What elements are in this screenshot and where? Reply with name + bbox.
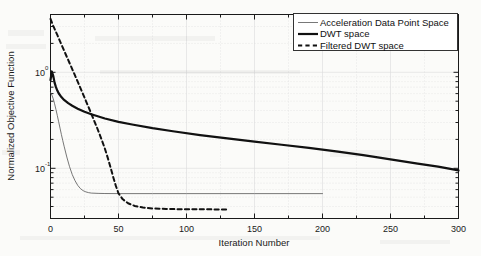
y-tick-labels: 10010-1 bbox=[35, 65, 51, 174]
x-tick-label: 300 bbox=[451, 224, 466, 234]
legend-label-1: DWT space bbox=[320, 28, 369, 39]
legend-label-0: Acceleration Data Point Space bbox=[320, 17, 449, 28]
series-line-2 bbox=[51, 19, 228, 210]
legend-label-2: Filtered DWT space bbox=[320, 40, 404, 51]
x-tick-label: 150 bbox=[247, 224, 262, 234]
chart-legend[interactable]: Acceleration Data Point SpaceDWT spaceFi… bbox=[294, 14, 458, 51]
x-tick-label: 200 bbox=[315, 224, 330, 234]
x-tick-label: 100 bbox=[179, 224, 194, 234]
y-axis-label: Normalized Objective Function bbox=[5, 51, 16, 180]
x-tick-labels: 050100150200250300 bbox=[48, 224, 466, 234]
chart-plot: 050100150200250300 10010-1 Iteration Num… bbox=[0, 0, 481, 256]
x-axis-label: Iteration Number bbox=[219, 237, 290, 248]
x-tick-label: 50 bbox=[113, 224, 123, 234]
y-tick-label: 10 bbox=[35, 68, 45, 78]
x-tick-label: 0 bbox=[48, 224, 53, 234]
figure-container: 050100150200250300 10010-1 Iteration Num… bbox=[0, 0, 481, 256]
y-tick-exponent: -1 bbox=[45, 161, 51, 167]
x-tick-label: 250 bbox=[383, 224, 398, 234]
y-tick-exponent: 0 bbox=[45, 65, 49, 71]
y-tick-label: 10 bbox=[35, 164, 45, 174]
